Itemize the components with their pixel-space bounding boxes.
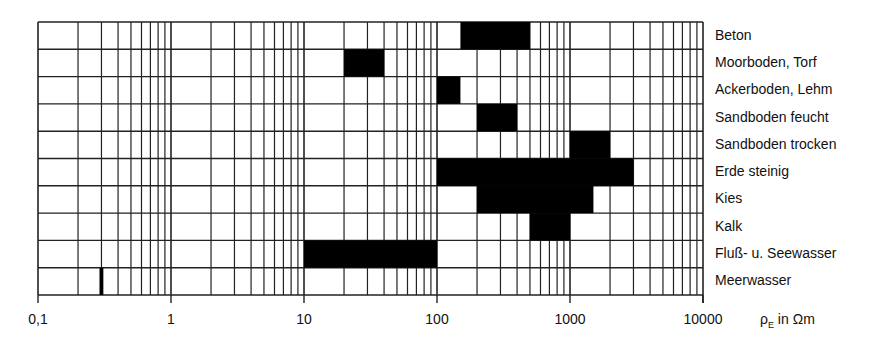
row-label: Meerwasser <box>715 272 791 288</box>
row-label: Moorboden, Torf <box>715 54 817 70</box>
bar-4 <box>477 104 517 131</box>
bar-9 <box>304 240 437 267</box>
x-tick-label: 100 <box>425 311 448 327</box>
bar-5 <box>570 131 610 158</box>
x-tick-label: 0,1 <box>28 311 47 327</box>
x-tick-label: 10 <box>296 311 312 327</box>
row-label: Kies <box>715 190 742 206</box>
x-tick-label: 1000 <box>554 311 585 327</box>
x-axis-ticks <box>38 295 703 303</box>
row-label: Kalk <box>715 218 742 234</box>
bar-6 <box>437 159 633 186</box>
bar-8 <box>530 213 570 240</box>
bar-7 <box>477 186 593 213</box>
x-axis-label: ρE in Ωm <box>760 311 815 330</box>
row-label: Ackerboden, Lehm <box>715 81 833 97</box>
row-label: Fluß- u. Seewasser <box>715 245 836 261</box>
bar-3 <box>437 77 460 104</box>
row-label: Sandboden trocken <box>715 136 836 152</box>
x-tick-label: 1 <box>167 311 175 327</box>
x-tick-label: 10000 <box>684 311 723 327</box>
bar-1 <box>460 22 530 49</box>
row-label: Sandboden feucht <box>715 109 829 125</box>
bar-2 <box>344 49 384 76</box>
row-label: Beton <box>715 27 752 43</box>
bar-10 <box>99 268 103 295</box>
row-label: Erde steinig <box>715 163 789 179</box>
